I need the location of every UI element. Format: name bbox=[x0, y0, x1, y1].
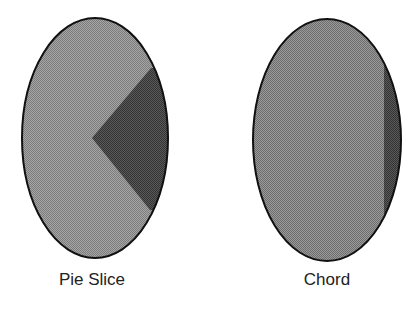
chord-figure bbox=[253, 15, 404, 265]
chord-label: Chord bbox=[247, 270, 407, 290]
pie-slice-figure bbox=[22, 18, 175, 258]
pie-slice-label: Pie Slice bbox=[12, 270, 172, 290]
diagram-canvas bbox=[0, 0, 416, 312]
